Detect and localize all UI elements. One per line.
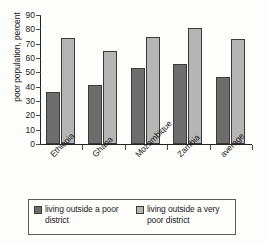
- bar: [173, 64, 187, 144]
- y-tick-mark: [36, 58, 41, 59]
- plot-area: 9080706050403020100: [40, 15, 252, 145]
- bar-chart: poor population, percent 908070605040302…: [0, 0, 267, 243]
- chart-legend: living outside a poor district living ou…: [28, 199, 236, 235]
- legend-item-very-poor-district: living outside a very poor district: [136, 204, 230, 225]
- bar: [103, 51, 117, 144]
- bar-group: [46, 15, 76, 144]
- bar: [61, 38, 75, 144]
- bar: [46, 92, 60, 144]
- legend-item-poor-district: living outside a poor district: [34, 204, 136, 225]
- x-tick-mark: [210, 145, 211, 150]
- y-tick-mark: [36, 87, 41, 88]
- y-tick-mark: [36, 15, 41, 16]
- bar: [131, 68, 145, 144]
- x-tick-mark: [82, 145, 83, 150]
- y-tick-mark: [36, 72, 41, 73]
- y-tick-mark: [36, 29, 41, 30]
- x-tick-mark: [167, 145, 168, 150]
- y-tick-mark: [36, 44, 41, 45]
- bar: [216, 77, 230, 144]
- bar-group: [216, 15, 246, 144]
- x-tick-mark: [125, 145, 126, 150]
- dark-swatch-icon: [34, 206, 42, 214]
- y-tick-mark: [36, 101, 41, 102]
- bar: [231, 39, 245, 144]
- y-axis-line: [40, 15, 41, 145]
- y-tick-label: 10: [26, 125, 35, 135]
- legend-label: living outside a very poor district: [147, 204, 230, 225]
- y-tick-label: 60: [26, 53, 35, 63]
- bar: [188, 28, 202, 144]
- bar: [88, 85, 102, 144]
- y-tick-mark: [36, 115, 41, 116]
- y-tick-label: 0: [30, 139, 35, 149]
- y-tick-label: 90: [26, 10, 35, 20]
- y-tick-mark: [36, 130, 41, 131]
- y-tick-label: 50: [26, 67, 35, 77]
- y-axis-title: poor population, percent: [12, 0, 22, 122]
- y-tick-label: 20: [26, 110, 35, 120]
- y-tick-label: 70: [26, 39, 35, 49]
- y-tick-label: 80: [26, 24, 35, 34]
- bar-group: [173, 15, 203, 144]
- y-tick-label: 40: [26, 82, 35, 92]
- light-swatch-icon: [136, 206, 144, 214]
- y-tick-label: 30: [26, 96, 35, 106]
- legend-label: living outside a poor district: [45, 204, 136, 225]
- bar-group: [88, 15, 118, 144]
- x-tick-mark: [252, 145, 253, 150]
- y-tick-mark: [36, 144, 41, 145]
- bar-group: [131, 15, 161, 144]
